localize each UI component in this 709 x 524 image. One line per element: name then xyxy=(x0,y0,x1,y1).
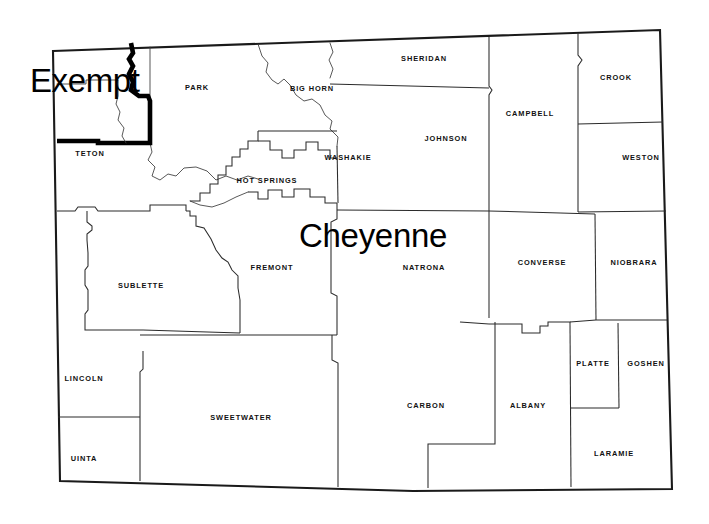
exempt-annotation-label: Exempt xyxy=(30,64,139,97)
county-label-park: PARK xyxy=(185,83,209,92)
county-label-hotsprings: HOT SPRINGS xyxy=(237,176,298,185)
county-label-campbell: CAMPBELL xyxy=(506,109,554,118)
county-label-uinta: UINTA xyxy=(71,454,98,463)
county-label-platte: PLATTE xyxy=(576,359,610,368)
county-label-washakie: WASHAKIE xyxy=(324,153,371,162)
county-label-carbon: CARBON xyxy=(407,401,445,410)
county-label-sheridan: SHERIDAN xyxy=(401,54,447,63)
state-outline xyxy=(53,30,672,491)
county-label-converse: CONVERSE xyxy=(518,258,567,267)
county-label-niobrara: NIOBRARA xyxy=(610,258,657,267)
county-label-johnson: JOHNSON xyxy=(425,134,468,143)
county-label-crook: CROOK xyxy=(600,73,632,82)
county-label-sweetwater: SWEETWATER xyxy=(210,413,271,422)
county-label-bighorn: BIG HORN xyxy=(290,84,334,93)
cheyenne-annotation-label: Cheyenne xyxy=(299,219,447,252)
county-label-fremont: FREMONT xyxy=(251,263,294,272)
county-label-laramie: LARAMIE xyxy=(594,449,634,458)
county-label-natrona: NATRONA xyxy=(403,263,446,272)
wyoming-county-map: PARK BIG HORN SHERIDAN CROOK CAMPBELL JO… xyxy=(0,0,709,524)
county-label-albany: ALBANY xyxy=(510,401,546,410)
county-label-weston: WESTON xyxy=(622,153,660,162)
county-label-teton: TETON xyxy=(75,149,104,158)
county-label-lincoln: LINCOLN xyxy=(64,374,103,383)
county-label-goshen: GOSHEN xyxy=(627,359,664,368)
county-label-sublette: SUBLETTE xyxy=(118,281,164,290)
